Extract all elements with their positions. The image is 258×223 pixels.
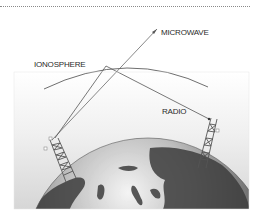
radio-microwave-propagation-diagram: MICROWAVE IONOSPHERE RADIO bbox=[0, 0, 258, 223]
diagram-illustration bbox=[0, 0, 258, 223]
radio-label: RADIO bbox=[162, 107, 186, 116]
microwave-label: MICROWAVE bbox=[161, 28, 209, 37]
ionosphere-label: IONOSPHERE bbox=[34, 60, 85, 69]
